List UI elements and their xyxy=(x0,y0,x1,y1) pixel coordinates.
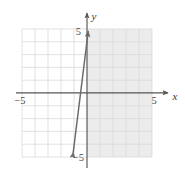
graph-figure: −5 5 5 −5 y x xyxy=(0,0,185,180)
y-axis-label: y xyxy=(91,10,97,22)
x-tick-label-five: 5 xyxy=(151,95,156,106)
y-tick-label-negative-five: −5 xyxy=(73,152,84,163)
y-tick-label-five: 5 xyxy=(76,26,81,37)
x-tick-label-negative-five: −5 xyxy=(14,95,25,106)
coordinate-plane-svg: −5 5 5 −5 y x xyxy=(0,0,185,180)
x-axis-label: x xyxy=(172,90,178,102)
